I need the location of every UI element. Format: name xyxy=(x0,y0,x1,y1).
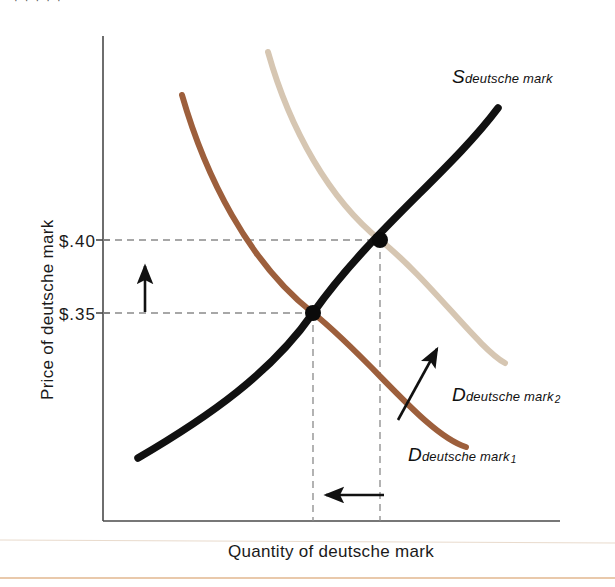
demand-curve-1-subscript: deutsche mark xyxy=(422,449,510,464)
demand-curve-2-label: Ddeutsche mark2 xyxy=(452,384,561,406)
y-tick-label-040: $.40 xyxy=(36,232,96,252)
supply-curve-subscript: deutsche mark xyxy=(465,71,553,86)
demand-curve-2 xyxy=(268,52,505,363)
equilibrium-point-initial xyxy=(305,305,321,321)
demand-curve-2-subnumber: 2 xyxy=(554,394,561,405)
demand-curve-1-subnumber: 1 xyxy=(510,454,517,465)
y-tick-label-035: $.35 xyxy=(36,305,96,325)
supply-curve-symbol: S xyxy=(452,66,465,87)
supply-demand-figure: · · · · · xyxy=(0,0,615,587)
demand-curve-2-symbol: D xyxy=(452,384,466,405)
supply-curve-label: Sdeutsche mark xyxy=(452,66,553,88)
demand-curve-1-symbol: D xyxy=(408,444,422,465)
equilibrium-point-new xyxy=(372,232,388,248)
demand-curve-2-subscript: deutsche mark xyxy=(466,389,554,404)
x-axis-label: Quantity of deutsche mark xyxy=(228,542,434,562)
demand-curve-1-label: Ddeutsche mark1 xyxy=(408,444,517,466)
chart-canvas xyxy=(0,0,615,587)
supply-curve xyxy=(138,108,498,458)
equilibrium-points xyxy=(305,232,388,321)
demand-curve-1 xyxy=(182,95,466,447)
